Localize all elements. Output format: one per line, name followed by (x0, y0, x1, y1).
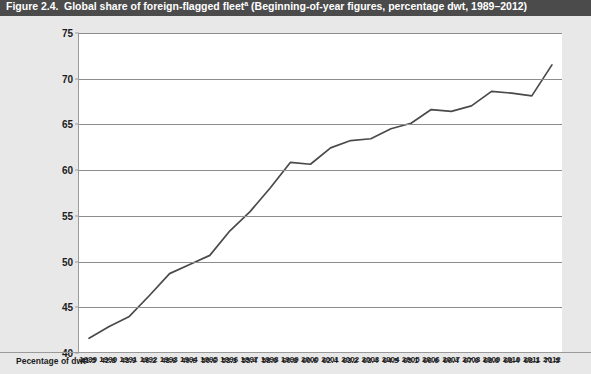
data-table-row: Pecentage of dwt 41.542.843.946.248.649.… (0, 352, 591, 371)
y-axis-tick-label: 50 (62, 256, 73, 267)
y-axis-tick-mark (75, 307, 79, 308)
y-axis-tick-label: 60 (62, 165, 73, 176)
data-cell: 53.3 (221, 356, 237, 365)
data-cell: 68.4 (504, 356, 520, 365)
data-cell: 49.6 (181, 356, 197, 365)
figure-title-bar: Figure 2.4.Global share of foreign-flagg… (0, 0, 591, 16)
data-cell: 48.6 (161, 356, 177, 365)
plot-area: 4045505560657075 (78, 33, 562, 353)
gridline-50 (79, 262, 562, 263)
data-cell: 42.8 (100, 356, 116, 365)
gridline-75 (79, 33, 562, 34)
y-axis-tick-mark (75, 124, 79, 125)
gridline-45 (79, 307, 562, 308)
data-cell: 71.5 (544, 356, 560, 365)
data-cell: 66.4 (443, 356, 459, 365)
data-cell: 62.4 (322, 356, 338, 365)
chart-area: 4045505560657075 19891990199119921993199… (0, 16, 591, 350)
y-axis-tick-mark (75, 78, 79, 79)
data-cell: 60.8 (282, 356, 298, 365)
gridline-55 (79, 216, 562, 217)
data-cell: 63.4 (363, 356, 379, 365)
data-cell: 58.0 (262, 356, 278, 365)
gridline-65 (79, 124, 562, 125)
gridline-70 (79, 79, 562, 80)
data-value-cells: 41.542.843.946.248.649.650.653.355.458.0… (78, 353, 562, 371)
y-axis-tick-mark (75, 215, 79, 216)
data-cell: 43.9 (121, 356, 137, 365)
data-cell: 46.2 (141, 356, 157, 365)
data-cell: 66.6 (423, 356, 439, 365)
y-axis-tick-label: 45 (62, 302, 73, 313)
figure-container: Figure 2.4.Global share of foreign-flagg… (0, 0, 591, 374)
y-axis-tick-label: 55 (62, 210, 73, 221)
gridline-60 (79, 170, 562, 171)
y-axis-tick-label: 75 (62, 28, 73, 39)
data-cell: 68.1 (524, 356, 540, 365)
y-axis-tick-mark (75, 170, 79, 171)
figure-subtitle: (Beginning-of-year figures, percentage d… (251, 0, 527, 12)
figure-title-text: Global share of foreign-flagged fleet (64, 0, 244, 12)
figure-number: Figure 2.4. (0, 0, 64, 16)
data-cell: 64.5 (383, 356, 399, 365)
data-cell: 68.6 (484, 356, 500, 365)
data-cell: 60.6 (302, 356, 318, 365)
y-axis-tick-label: 70 (62, 73, 73, 84)
y-axis-tick-mark (75, 261, 79, 262)
data-cell: 55.4 (242, 356, 258, 365)
y-axis-tick-label: 65 (62, 119, 73, 130)
data-cell: 50.6 (201, 356, 217, 365)
data-cell: 41.5 (80, 356, 96, 365)
data-cell: 63.2 (342, 356, 358, 365)
line-series-chart (79, 33, 562, 352)
y-axis-tick-mark (75, 33, 79, 34)
data-cell: 67.0 (463, 356, 479, 365)
series-line-percentage-of-dwt (89, 65, 552, 338)
data-cell: 65.1 (403, 356, 419, 365)
data-row-label: Pecentage of dwt (16, 356, 86, 366)
figure-title-footnote-marker: a (244, 0, 248, 7)
